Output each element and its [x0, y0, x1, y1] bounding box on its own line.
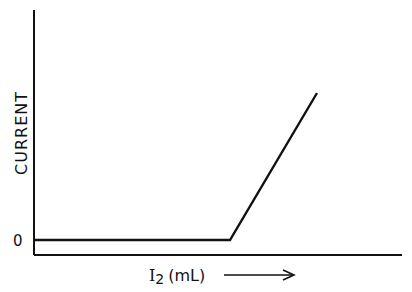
- x-label-unit: (mL): [168, 266, 205, 285]
- y-axis-label: CURRENT: [12, 91, 31, 175]
- current-curve: [34, 93, 317, 240]
- x-axis-label: I2(mL): [149, 266, 205, 287]
- y-tick-zero: 0: [13, 232, 23, 250]
- x-label-subscript: 2: [155, 271, 164, 287]
- titration-chart: CURRENT 0 I2(mL): [0, 0, 412, 292]
- arrow-right-icon: [224, 270, 294, 280]
